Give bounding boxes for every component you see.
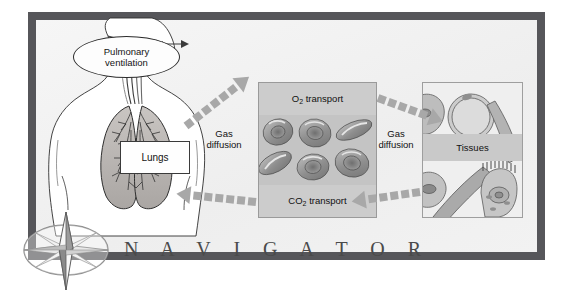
tissues-text: Tissues — [456, 142, 488, 153]
navigator-title: N A V I G A T O R — [124, 238, 430, 261]
tissues-label: Tissues — [423, 134, 522, 161]
figure-root: O2 transport — [0, 0, 562, 293]
